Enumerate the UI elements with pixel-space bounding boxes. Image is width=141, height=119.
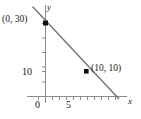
y-tick-label-10: 10 [22,67,32,77]
coordinate-plane-figure: y x 0 5 10 (0, 30) (10, 10) [0,0,141,119]
point-label-10-10: (10, 10) [91,64,121,74]
y-axis-ticks [42,24,46,83]
point-marker-0-30 [43,21,48,26]
point-label-0-30: (0, 30) [2,15,27,25]
x-tick-label-0: 0 [35,100,40,110]
point-marker-10-10 [84,69,89,74]
x-tick-label-5: 5 [66,100,71,110]
x-axis-label: x [128,97,132,106]
y-axis-label: y [47,3,51,12]
x-axis-ticks [39,97,116,101]
